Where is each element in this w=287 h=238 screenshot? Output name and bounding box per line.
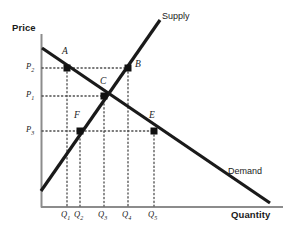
- point-marker-b: [125, 65, 132, 72]
- tick-label-p3: P3: [26, 124, 34, 136]
- tick-label-q2: Q2: [74, 209, 83, 221]
- tick-label-q1-sub: 1: [67, 215, 70, 221]
- tick-label-q3: Q3: [98, 209, 107, 221]
- tick-label-q5: Q5: [148, 209, 157, 221]
- demand-curve-label: Demand: [228, 166, 262, 176]
- point-marker-a: [64, 65, 71, 72]
- diagram-canvas: [0, 0, 287, 238]
- tick-label-q5-sub: 5: [154, 215, 157, 221]
- price-guide-lines: [42, 68, 154, 131]
- axes-group: [41, 34, 283, 208]
- tick-label-p2: P2: [26, 61, 34, 73]
- tick-label-q2-sub: 2: [80, 215, 83, 221]
- tick-label-q4-sub: 4: [128, 215, 131, 221]
- point-marker-e: [151, 128, 158, 135]
- supply-curve: [41, 20, 160, 191]
- x-axis-title: Quantity: [231, 209, 270, 220]
- tick-label-p2-sub: 2: [31, 67, 34, 73]
- y-axis-title: Price: [12, 22, 36, 33]
- point-label-b: B: [135, 59, 141, 69]
- tick-label-q1: Q1: [61, 209, 70, 221]
- supply-demand-diagram: Price Quantity Supply Demand A B C F E P…: [0, 0, 287, 238]
- supply-curve-label: Supply: [162, 11, 190, 21]
- demand-curve: [42, 48, 270, 203]
- tick-label-q4: Q4: [122, 209, 131, 221]
- tick-label-q3-sub: 3: [104, 215, 107, 221]
- point-label-f: F: [74, 110, 80, 120]
- point-markers: [64, 65, 158, 135]
- tick-label-p3-sub: 3: [31, 130, 34, 136]
- point-marker-c: [101, 93, 108, 100]
- point-label-c: C: [100, 76, 106, 86]
- tick-label-p1-sub: 1: [31, 95, 34, 101]
- point-label-a: A: [62, 46, 68, 56]
- point-marker-f: [77, 128, 84, 135]
- tick-label-p1: P1: [26, 89, 34, 101]
- point-label-e: E: [149, 110, 155, 120]
